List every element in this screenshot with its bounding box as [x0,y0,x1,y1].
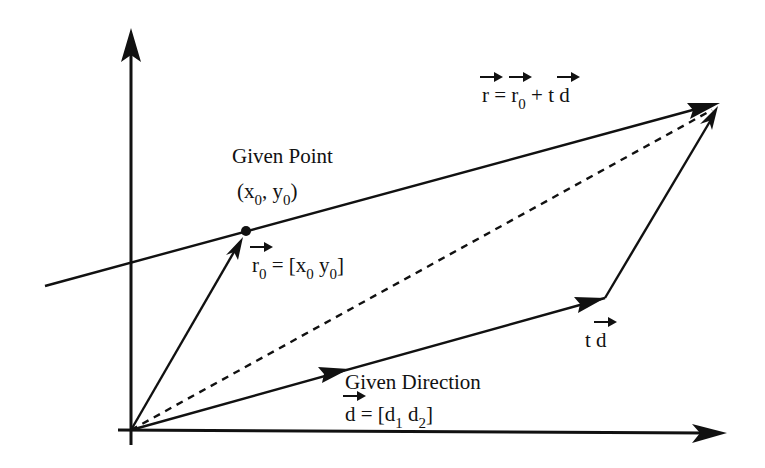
r0-arrowhead-icon [226,237,243,260]
given-point-coordinates: (x0, y0) [237,181,298,202]
r0-def-vector-symbol: r0 [252,255,267,276]
given-point-dot [241,226,251,236]
given-direction-title: Given Direction [345,372,481,393]
r0-vector-symbol: r0 [511,85,526,106]
td-label: t d [585,330,607,351]
equation-label: r = r0 + t d [482,85,570,106]
vector-line-diagram: r = r0 + t d Given Point (x0, y0) r0 = [… [0,0,765,468]
r0-definition-label: r0 = [x0 y0] [252,255,344,276]
given-point-title: Given Point [232,146,333,167]
r0-vector [131,245,238,430]
r-vector-symbol: r [482,85,489,106]
direction-vector-symbol: d [345,404,356,425]
direction-definition-label: d = [d1 d2] [345,404,433,425]
parametric-line [45,108,700,286]
d-vector-symbol: d [559,85,570,106]
translated-r0-vector [605,118,712,298]
y-axis [121,28,141,445]
td-vector-symbol: d [596,330,607,351]
diagram-figure [0,0,765,468]
